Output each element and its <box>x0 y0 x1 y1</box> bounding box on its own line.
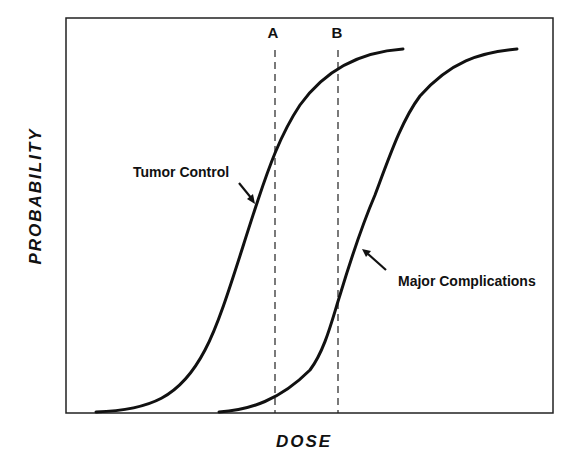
plot-frame <box>66 18 553 413</box>
reference-label-a: A <box>268 24 279 41</box>
tumor-control-arrow <box>239 183 255 204</box>
chart: A B Tumor Control Major Complications DO… <box>0 0 583 473</box>
tumor-control-curve <box>96 49 403 412</box>
major-complications-curve <box>219 49 517 412</box>
reference-label-b: B <box>332 24 343 41</box>
x-axis-label: DOSE <box>276 432 332 451</box>
major-complications-label: Major Complications <box>398 273 536 289</box>
major-complications-arrow <box>362 249 386 270</box>
y-axis-label: PROBABILITY <box>26 127 45 264</box>
tumor-control-label: Tumor Control <box>133 164 229 180</box>
